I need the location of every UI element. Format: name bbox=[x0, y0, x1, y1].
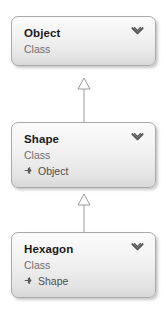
generalization-arrow-icon bbox=[0, 190, 168, 236]
class-node-base-label: Shape bbox=[38, 274, 68, 288]
class-node-title: Object bbox=[24, 26, 60, 40]
uml-class-diagram: Object Class Shape bbox=[0, 0, 168, 324]
chevron-down-icon[interactable] bbox=[131, 133, 144, 142]
class-node-header: Hexagon bbox=[24, 242, 145, 256]
class-node-base: Object bbox=[24, 164, 145, 178]
class-node-base: Shape bbox=[24, 274, 145, 288]
generalization-arrow-icon bbox=[0, 72, 168, 126]
class-node-stereotype: Class bbox=[24, 148, 145, 162]
class-node-base-label: Object bbox=[38, 164, 68, 178]
class-node-hexagon[interactable]: Hexagon Class Shape bbox=[11, 232, 156, 298]
class-node-stereotype: Class bbox=[24, 42, 145, 56]
inheritance-arrow-icon bbox=[24, 166, 34, 175]
class-node-shape[interactable]: Shape Class Object bbox=[11, 122, 156, 188]
class-node-header: Shape bbox=[24, 132, 145, 146]
class-node-header: Object bbox=[24, 26, 145, 40]
class-node-stereotype: Class bbox=[24, 258, 145, 272]
generalization-connector-shape-to-object[interactable] bbox=[0, 72, 168, 126]
class-node-object[interactable]: Object Class bbox=[11, 16, 156, 66]
class-node-title: Shape bbox=[24, 132, 59, 146]
generalization-connector-hexagon-to-shape[interactable] bbox=[0, 190, 168, 236]
chevron-down-icon[interactable] bbox=[131, 243, 144, 252]
class-node-title: Hexagon bbox=[24, 242, 73, 256]
inheritance-arrow-icon bbox=[24, 276, 34, 285]
chevron-down-icon[interactable] bbox=[131, 27, 144, 36]
